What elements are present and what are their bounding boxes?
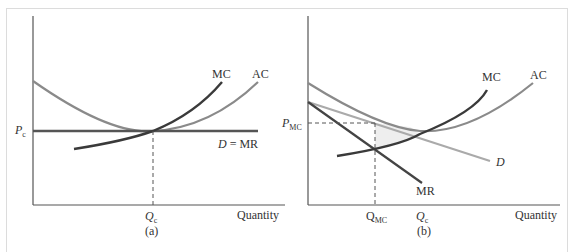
price-label-b: PMC: [282, 116, 302, 132]
mc-curve-a: [74, 82, 222, 149]
panel-a: [33, 16, 285, 205]
ac-label-b: AC: [530, 68, 547, 83]
caption-a: (a): [145, 224, 158, 239]
panel-b: [308, 16, 560, 205]
caption-b: (b): [417, 224, 431, 239]
ac-curve-b: [308, 83, 533, 131]
qc-label-a: Qc: [145, 209, 157, 225]
mc-label-b: MC: [482, 70, 501, 85]
qmc-label-b: QMC: [366, 209, 387, 225]
price-label-a: Pc: [15, 123, 26, 139]
mc-label-a: MC: [212, 67, 231, 82]
ac-label-a: AC: [252, 67, 269, 82]
x-axis-label-b: Quantity: [515, 208, 557, 223]
demand-label-b: D: [496, 155, 505, 170]
demand-mr-label-a: D = MR: [218, 137, 258, 152]
demand-line-b: [308, 102, 490, 161]
x-axis-label-a: Quantity: [237, 208, 279, 223]
qc-label-b: Qc: [416, 209, 428, 225]
ac-curve-a: [33, 81, 258, 131]
mr-label-b: MR: [416, 184, 435, 199]
